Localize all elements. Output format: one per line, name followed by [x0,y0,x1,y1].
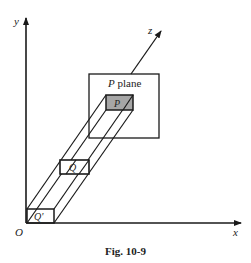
oblique-projection-diagram: y x z O P plane P Q Q' Fig. 10-9 [0,0,251,263]
z-axis [131,31,161,74]
projection-prism [27,95,133,223]
point-p-label: P [113,98,120,109]
origin-label: O [15,226,23,238]
p-plane-label: P plane [107,77,141,89]
y-axis-label: y [13,15,19,27]
point-q-label: Q [69,162,77,173]
point-q-prime-label: Q' [34,211,44,222]
z-axis-label: z [147,24,153,36]
x-axis-label: x [232,226,238,238]
figure-caption: Fig. 10-9 [105,245,146,257]
